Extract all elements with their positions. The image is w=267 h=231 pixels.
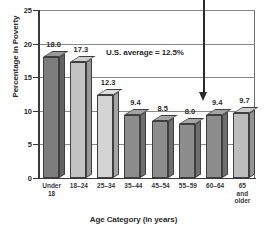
poverty-by-age-chart: Percentage in Poverty 0510152025 18.017.… — [0, 0, 267, 231]
bar-top-face — [233, 107, 259, 113]
bar — [179, 124, 195, 178]
callout-arrow-head — [199, 92, 207, 101]
bar-side-face — [195, 121, 201, 178]
bar-side-face — [222, 111, 228, 178]
bar-side-face — [168, 117, 174, 178]
bar-side-face — [140, 111, 146, 178]
bar-front-face — [43, 57, 59, 178]
bar-side-face — [59, 53, 65, 178]
bar-value-label: 8.0 — [176, 107, 204, 116]
y-tick-label-20: 20 — [8, 40, 32, 49]
bar — [124, 115, 140, 178]
bar-side-face — [86, 58, 92, 178]
bar-front-face — [97, 95, 113, 178]
bar — [206, 115, 222, 178]
bar-front-face — [70, 62, 86, 178]
bar-front-face — [124, 115, 140, 178]
bar-value-label: 9.4 — [121, 98, 149, 107]
x-axis-title: Age Category (in years) — [0, 215, 267, 224]
bar-side-face — [249, 109, 255, 178]
y-tick-label-5: 5 — [8, 140, 32, 149]
y-tick-label-0: 0 — [8, 174, 32, 183]
bar-front-face — [206, 115, 222, 178]
bar-value-label: 12.3 — [94, 78, 122, 87]
bar-front-face — [233, 113, 249, 178]
bar-top-face — [124, 109, 150, 115]
bar-side-face — [113, 92, 119, 178]
bar — [70, 62, 86, 178]
x-category-label: 65 and older — [227, 182, 258, 205]
y-tick-mark-0 — [33, 178, 38, 179]
bar-value-label: 17.3 — [67, 45, 95, 54]
y-tick-label-15: 15 — [8, 73, 32, 82]
y-tick-label-25: 25 — [8, 6, 32, 15]
bar-value-label: 18.0 — [40, 40, 68, 49]
bar — [97, 95, 113, 178]
bar — [152, 121, 168, 178]
bar — [43, 57, 59, 178]
bar-value-label: 8.5 — [149, 104, 177, 113]
us-average-annotation: U.S. average = 12.5% — [106, 48, 184, 57]
bar — [233, 113, 249, 178]
bar-series: 18.017.312.39.48.58.09.49.7 — [38, 10, 256, 178]
bar-front-face — [179, 124, 195, 178]
y-tick-label-10: 10 — [8, 107, 32, 116]
bar-value-label: 9.4 — [203, 98, 231, 107]
bar-front-face — [152, 121, 168, 178]
callout-arrow-shaft — [203, 0, 205, 94]
x-axis-line — [38, 178, 256, 179]
bar-value-label: 9.7 — [230, 96, 258, 105]
